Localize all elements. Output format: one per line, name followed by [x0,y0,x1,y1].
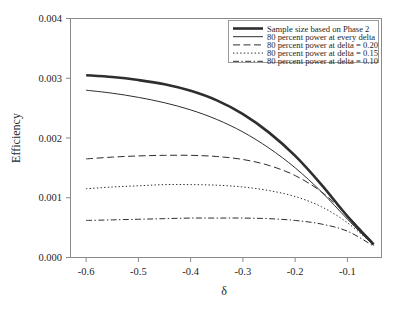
series-line-2 [86,155,373,244]
x-axis-title: δ [221,284,227,298]
x-tick-label: -0.3 [235,266,252,277]
x-tick-label: -0.6 [78,266,95,277]
x-axis-ticks [86,258,347,263]
y-axis-ticks [66,19,71,258]
y-axis-title: Efficiency [9,113,23,163]
y-tick-label: 0.001 [38,192,62,203]
series-line-0 [86,75,373,244]
y-axis-tick-labels: 0.004 0.003 0.002 0.001 0.000 [38,13,62,263]
y-tick-label: 0.003 [38,73,62,84]
y-tick-label: 0.004 [38,13,62,24]
x-tick-label: -0.1 [339,266,356,277]
x-tick-label: -0.4 [182,266,199,277]
y-tick-label: 0.002 [38,133,62,144]
legend-label-4: 80 percent power at delta = 0.10 [267,56,378,66]
data-curves [86,75,373,246]
efficiency-chart-figure: 0.004 0.003 0.002 0.001 0.000 -0.6 -0.5 … [0,0,400,310]
x-axis-tick-labels: -0.6 -0.5 -0.4 -0.3 -0.2 -0.1 [78,266,356,277]
x-tick-label: -0.5 [130,266,147,277]
chart-legend: Sample size based on Phase 280 percent p… [229,21,379,67]
series-line-1 [86,90,373,245]
chart-canvas: 0.004 0.003 0.002 0.001 0.000 -0.6 -0.5 … [0,0,400,310]
y-tick-label: 0.000 [38,252,62,263]
series-line-4 [86,218,373,246]
x-tick-label: -0.2 [287,266,304,277]
